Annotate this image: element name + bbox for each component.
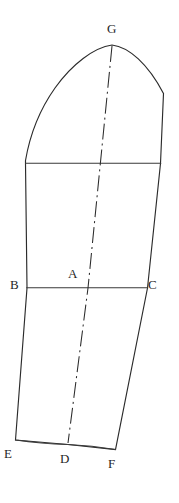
vertex-label-d: D [60,452,69,465]
vertex-label-a: A [68,267,77,280]
vertex-label-f: F [108,457,115,470]
pattern-diagram [0,0,179,503]
vertex-label-g: G [107,22,116,35]
vertex-label-b: B [10,278,19,291]
pattern-drawing-canvas: G B A C E D F [0,0,179,503]
grainline-center-line [68,46,112,443]
vertex-label-c: C [148,278,157,291]
vertex-label-e: E [4,447,12,460]
sleeve-outline-path [16,45,164,450]
